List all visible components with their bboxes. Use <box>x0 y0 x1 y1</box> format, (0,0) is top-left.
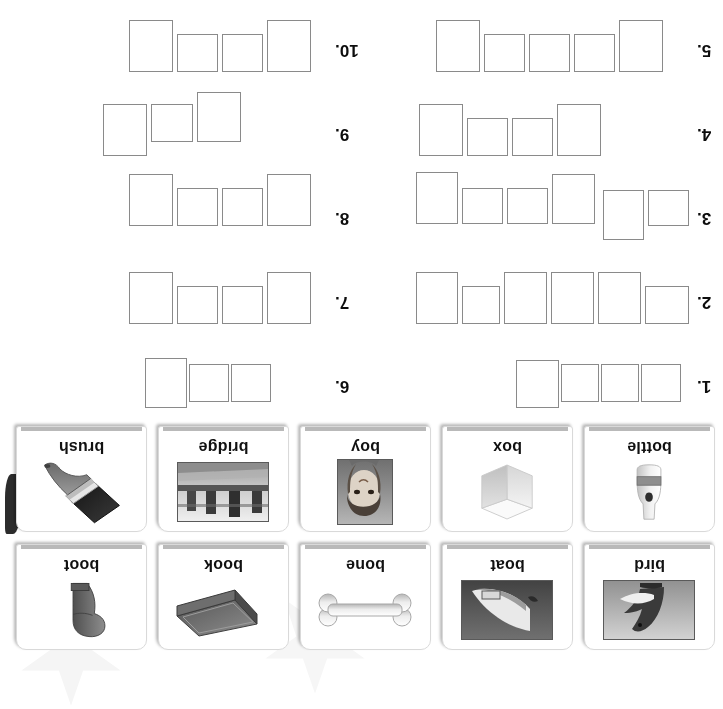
word-card-label: bone <box>346 551 385 575</box>
question-row-2: 2. <box>362 254 723 338</box>
letter-box[interactable] <box>189 364 229 402</box>
word-card-book[interactable]: book <box>158 544 289 650</box>
word-card-box[interactable]: box <box>442 426 573 532</box>
box-illustration-icon <box>443 457 572 531</box>
letter-box[interactable] <box>645 286 689 324</box>
letter-box[interactable] <box>557 104 601 156</box>
question-row-1: 1. <box>362 338 723 422</box>
letter-box[interactable] <box>103 104 147 156</box>
letter-box[interactable] <box>177 286 218 324</box>
letter-box[interactable] <box>512 118 553 156</box>
letter-box[interactable] <box>603 190 644 240</box>
letter-boxes <box>0 338 327 416</box>
letter-box[interactable] <box>129 272 173 324</box>
word-card-bird[interactable]: bird <box>584 544 715 650</box>
letter-box[interactable] <box>598 272 641 324</box>
question-row-4: 4. <box>362 86 723 170</box>
word-card-label: bridge <box>198 433 248 457</box>
letter-box[interactable] <box>641 364 681 402</box>
letter-box[interactable] <box>529 34 570 72</box>
bird-photo-icon <box>585 575 714 649</box>
letter-box[interactable] <box>462 188 503 224</box>
letter-box[interactable] <box>129 174 173 226</box>
letter-box[interactable] <box>267 20 311 72</box>
word-card-boy[interactable]: boy <box>300 426 431 532</box>
letter-box[interactable] <box>507 188 548 224</box>
letter-boxes <box>0 86 327 164</box>
question-number: 4. <box>689 104 723 164</box>
question-number: 8. <box>327 188 361 248</box>
word-card-boat[interactable]: boat <box>442 544 573 650</box>
letter-box[interactable] <box>462 286 500 324</box>
letter-box[interactable] <box>516 360 559 408</box>
question-number: 9. <box>327 104 361 164</box>
word-card-bone[interactable]: bone <box>300 544 431 650</box>
letter-box[interactable] <box>267 174 311 226</box>
letter-box[interactable] <box>151 104 193 142</box>
question-number: 6. <box>327 356 361 416</box>
letter-box[interactable] <box>419 104 463 156</box>
boy-photo-icon <box>301 457 430 531</box>
word-card-boot[interactable]: boot <box>16 544 147 650</box>
letter-box[interactable] <box>601 364 639 402</box>
letter-box[interactable] <box>561 364 599 402</box>
letter-boxes <box>362 338 689 416</box>
word-card-bottle[interactable]: bottle <box>584 426 715 532</box>
question-row-7: 7. <box>0 254 361 338</box>
word-card-label: boat <box>490 551 525 575</box>
letter-box[interactable] <box>222 34 263 72</box>
bottle-illustration-icon <box>585 457 714 531</box>
word-card-label: box <box>493 433 522 457</box>
letter-box[interactable] <box>436 20 480 72</box>
letter-box[interactable] <box>145 358 187 408</box>
question-row-8: 8. <box>0 170 361 254</box>
letter-box[interactable] <box>129 20 173 72</box>
word-card-label: bottle <box>627 433 672 457</box>
brush-illustration-icon <box>17 457 146 531</box>
letter-box[interactable] <box>648 190 689 226</box>
letter-boxes <box>362 2 689 80</box>
question-row-5: 5. <box>362 2 723 86</box>
question-row-3: 3. <box>362 170 723 254</box>
letter-box[interactable] <box>222 188 263 226</box>
word-card-bridge[interactable]: bridge <box>158 426 289 532</box>
question-column-right: 6. 7. 8. <box>0 0 361 422</box>
letter-box[interactable] <box>177 34 218 72</box>
word-card-label: book <box>204 551 243 575</box>
letter-box[interactable] <box>552 174 595 224</box>
letter-box[interactable] <box>267 272 311 324</box>
letter-boxes <box>362 170 689 248</box>
letter-box[interactable] <box>177 188 218 226</box>
letter-box[interactable] <box>197 92 241 142</box>
letter-boxes <box>0 254 327 332</box>
letter-box[interactable] <box>222 286 263 324</box>
letter-boxes <box>0 170 327 248</box>
letter-box[interactable] <box>231 364 271 402</box>
letter-box-exercise: 1. 2. 3. <box>0 0 723 422</box>
question-row-10: 10. <box>0 2 361 86</box>
word-card-label: boot <box>64 551 99 575</box>
question-number: 3. <box>689 188 723 248</box>
question-number: 1. <box>689 356 723 416</box>
letter-box[interactable] <box>467 118 508 156</box>
word-card-brush[interactable]: brush <box>16 426 147 532</box>
letter-boxes <box>0 2 327 80</box>
letter-box[interactable] <box>416 272 458 324</box>
letter-box[interactable] <box>574 34 615 72</box>
question-row-9: 9. <box>0 86 361 170</box>
letter-boxes <box>362 86 689 164</box>
letter-box[interactable] <box>416 172 458 224</box>
book-illustration-icon <box>159 575 288 649</box>
letter-box[interactable] <box>484 34 525 72</box>
question-number: 10. <box>327 20 361 80</box>
word-card-label: bird <box>634 551 665 575</box>
letter-box[interactable] <box>619 20 663 72</box>
word-card-label: boy <box>351 433 380 457</box>
question-row-6: 6. <box>0 338 361 422</box>
boot-illustration-icon <box>17 575 146 649</box>
question-number: 2. <box>689 272 723 332</box>
letter-box[interactable] <box>551 272 594 324</box>
question-number: 7. <box>327 272 361 332</box>
letter-box[interactable] <box>504 272 547 324</box>
letter-boxes <box>362 254 689 332</box>
